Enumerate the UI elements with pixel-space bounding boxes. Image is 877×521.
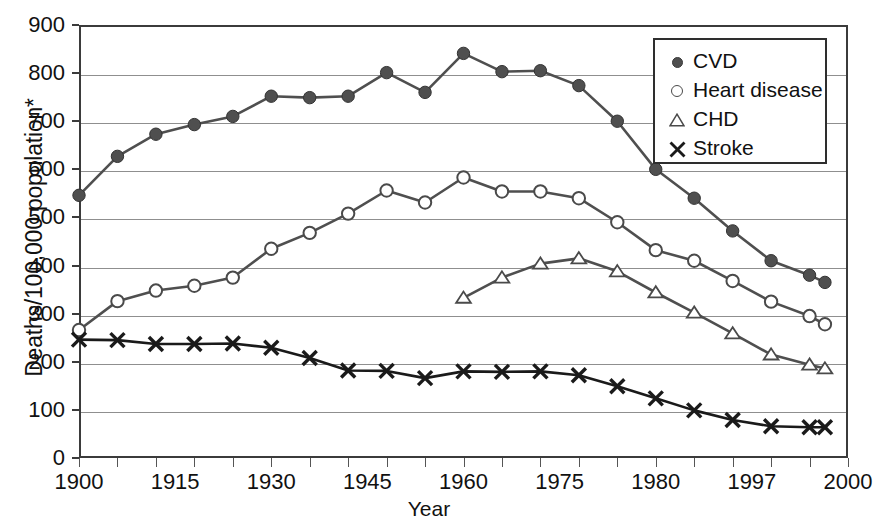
x-tick-mark [579, 458, 580, 467]
gridline [81, 268, 846, 269]
y-tick-mark [72, 361, 79, 363]
x-tick-mark [79, 458, 80, 467]
x-tick-label: 1980 [611, 471, 701, 493]
y-tick-mark [72, 457, 79, 459]
x-tick-mark [733, 458, 734, 467]
x-tick-mark [387, 458, 388, 467]
y-tick-label: 100 [1, 399, 65, 421]
x-tick-label: 1997 [707, 471, 797, 493]
y-tick-label: 600 [1, 158, 65, 180]
x-tick-mark [271, 458, 272, 467]
y-tick-mark [72, 24, 79, 26]
x-tick-label: 1960 [419, 471, 509, 493]
x-tick-mark [425, 458, 426, 467]
gridline [81, 412, 846, 413]
x-axis: 190019151930194519601975198019972000 [79, 458, 848, 498]
x-tick-mark [617, 458, 618, 467]
x-tick-mark [310, 458, 311, 467]
y-tick-mark [72, 168, 79, 170]
legend-item-cvd[interactable]: CVD [655, 46, 825, 75]
x-tick-mark [771, 458, 772, 467]
x-tick-label: 2000 [803, 471, 877, 493]
x-axis-title: Year [0, 497, 858, 521]
legend-label: Stroke [693, 137, 754, 158]
x-tick-mark [540, 458, 541, 467]
gridline [81, 316, 846, 317]
legend: CVDHeart diseaseCHDStroke [653, 38, 827, 164]
legend-item-heart-disease[interactable]: Heart disease [655, 75, 825, 104]
x-tick-mark [117, 458, 118, 467]
x-tick-mark [656, 458, 657, 467]
legend-label: CHD [693, 108, 739, 129]
gridline [81, 364, 846, 365]
y-tick-mark [72, 216, 79, 218]
x-tick-label: 1945 [322, 471, 412, 493]
x-tick-mark [348, 458, 349, 467]
legend-marker-open-triangle-icon [665, 106, 691, 132]
legend-marker-filled-circle-icon [665, 48, 691, 74]
y-tick-mark [72, 409, 79, 411]
x-tick-label: 1975 [515, 471, 605, 493]
x-tick-mark [194, 458, 195, 467]
y-tick-label: 400 [1, 255, 65, 277]
y-tick-label: 300 [1, 303, 65, 325]
y-tick-label: 500 [1, 206, 65, 228]
x-tick-mark [464, 458, 465, 467]
y-tick-label: 700 [1, 110, 65, 132]
x-tick-mark [694, 458, 695, 467]
legend-item-chd[interactable]: CHD [655, 104, 825, 133]
x-tick-label: 1900 [34, 471, 124, 493]
y-tick-mark [72, 120, 79, 122]
y-tick-mark [72, 313, 79, 315]
legend-label: CVD [693, 50, 737, 71]
y-tick-label: 900 [1, 14, 65, 36]
y-axis: 0100200300400500600700800900 [0, 25, 79, 458]
legend-item-stroke[interactable]: Stroke [655, 133, 825, 162]
y-tick-label: 800 [1, 62, 65, 84]
x-tick-mark [502, 458, 503, 467]
legend-marker-open-circle-icon [665, 77, 691, 103]
y-tick-label: 200 [1, 351, 65, 373]
x-tick-label: 1915 [130, 471, 220, 493]
y-tick-label: 0 [1, 447, 65, 469]
y-tick-mark [72, 72, 79, 74]
legend-marker-cross-icon [665, 135, 691, 161]
gridline [81, 171, 846, 172]
x-tick-mark [156, 458, 157, 467]
y-tick-mark [72, 265, 79, 267]
x-tick-mark [810, 458, 811, 467]
x-tick-label: 1930 [226, 471, 316, 493]
gridline [81, 219, 846, 220]
legend-label: Heart disease [693, 79, 823, 100]
x-tick-mark [848, 458, 849, 467]
x-tick-mark [233, 458, 234, 467]
